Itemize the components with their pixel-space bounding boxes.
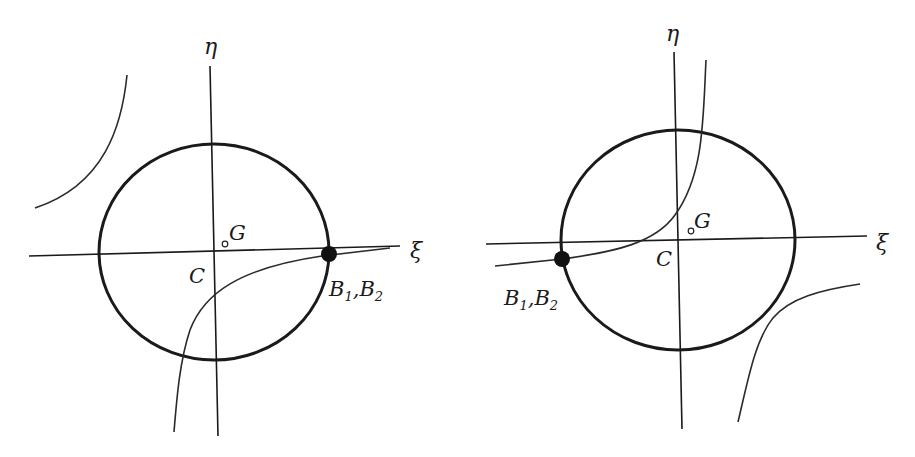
two-panel-diagram: η ξ G C B1,B2 η ξ G C B1,B2 — [0, 0, 915, 457]
coincident-points-label: B1,B2 — [328, 277, 383, 304]
center-label: C — [656, 247, 672, 271]
centroid-marker — [222, 241, 228, 247]
centroid-marker — [688, 228, 694, 234]
centroid-label: G — [229, 221, 246, 245]
centroid-label: G — [694, 209, 711, 233]
coincident-point-b1-b2 — [321, 246, 337, 262]
hyperbola-upper-left-branch — [35, 75, 127, 208]
hyperbola-lower-right-branch — [738, 284, 860, 422]
eta-label: η — [666, 21, 679, 46]
coincident-point-b1-b2 — [554, 251, 570, 267]
right-panel: η ξ G C B1,B2 — [486, 21, 890, 429]
xi-label: ξ — [876, 230, 890, 255]
eta-label: η — [204, 34, 217, 59]
coincident-points-label: B1,B2 — [503, 286, 558, 313]
xi-label: ξ — [410, 238, 424, 263]
center-label: C — [189, 264, 205, 288]
left-panel: η ξ G C B1,B2 — [29, 34, 424, 436]
xi-axis — [486, 236, 867, 244]
